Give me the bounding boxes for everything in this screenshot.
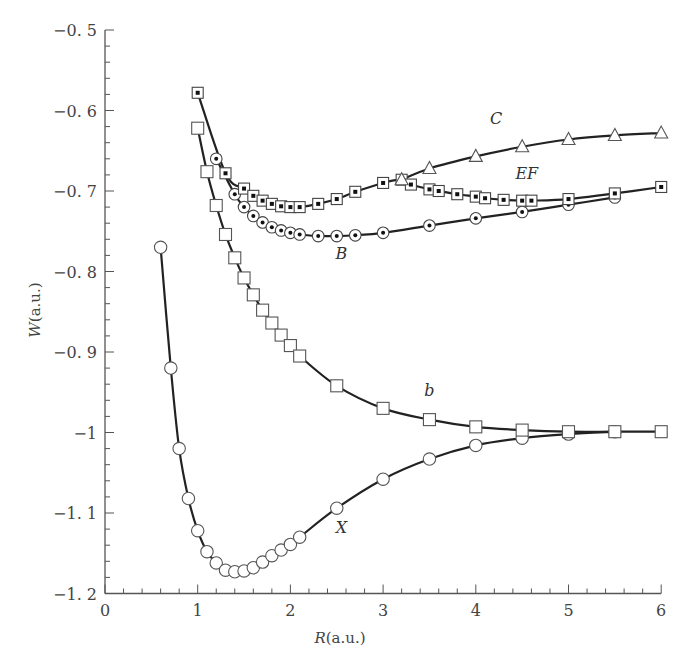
open-square-icon: [423, 414, 435, 426]
center-dot-icon: [261, 220, 265, 224]
open-circle-icon: [192, 525, 204, 537]
open-circle-icon: [331, 502, 343, 514]
marker-open-square: [470, 421, 482, 433]
open-square-icon: [377, 402, 389, 414]
center-square-icon: [298, 205, 302, 209]
center-square-icon: [196, 91, 200, 95]
marker-dotted-square: [656, 181, 667, 192]
center-square-icon: [483, 196, 487, 200]
center-square-icon: [224, 171, 228, 175]
marker-open-circle: [201, 545, 213, 557]
curve-label-x: X: [334, 518, 348, 537]
center-square-icon: [474, 195, 478, 199]
marker-open-square: [294, 350, 306, 362]
x-tick-label: 5: [563, 601, 573, 620]
center-dot-icon: [279, 228, 283, 232]
y-tick-label: −0. 5: [53, 21, 97, 40]
y-axis-label: W(a.u.): [26, 282, 44, 337]
x-tick-label: 0: [100, 601, 110, 620]
marker-dotted-square: [313, 198, 324, 209]
center-square-icon: [316, 202, 320, 206]
open-circle-icon: [182, 492, 194, 504]
open-square-icon: [655, 426, 667, 438]
open-circle-icon: [377, 473, 389, 485]
open-square-icon: [470, 421, 482, 433]
open-circle-icon: [423, 453, 435, 465]
open-square-icon: [201, 166, 213, 178]
marker-dotted-square: [452, 189, 463, 200]
marker-open-circle: [165, 362, 177, 374]
center-square-icon: [335, 197, 339, 201]
marker-dotted-square: [294, 202, 305, 213]
center-dot-icon: [214, 157, 218, 161]
open-square-icon: [294, 350, 306, 362]
curve-label-ef: EF: [514, 164, 539, 183]
center-square-icon: [437, 189, 441, 193]
marker-open-square: [331, 380, 343, 392]
open-square-icon: [257, 304, 269, 316]
marker-dotted-square: [192, 87, 203, 98]
center-square-icon: [409, 183, 413, 187]
x-axis-label: R(a.u.): [313, 629, 365, 647]
marker-open-square: [516, 424, 528, 436]
marker-open-circle: [377, 473, 389, 485]
marker-open-square: [220, 228, 232, 240]
marker-dotted-circle: [238, 201, 250, 213]
center-square-icon: [529, 199, 533, 203]
center-dot-icon: [288, 231, 292, 235]
y-tick-label: −1. 1: [53, 504, 97, 523]
marker-dotted-square: [331, 194, 342, 205]
axes: −0. 5−0. 6−0. 7−0. 8−0. 9−1−1. 1−1. 2012…: [53, 21, 666, 620]
center-dot-icon: [427, 224, 431, 228]
center-square-icon: [427, 187, 431, 191]
open-square-icon: [563, 426, 575, 438]
open-circle-icon: [173, 442, 185, 454]
marker-open-circle: [192, 525, 204, 537]
open-square-icon: [609, 426, 621, 438]
marker-dotted-square: [220, 168, 231, 179]
center-dot-icon: [353, 233, 357, 237]
marker-dotted-square: [498, 194, 509, 205]
marker-open-circle: [293, 531, 305, 543]
marker-open-square: [192, 122, 204, 134]
marker-open-circle: [331, 502, 343, 514]
marker-open-square: [609, 426, 621, 438]
center-dot-icon: [381, 231, 385, 235]
y-tick-label: −1. 2: [53, 585, 97, 604]
center-dot-icon: [298, 232, 302, 236]
marker-open-square: [655, 426, 667, 438]
center-dot-icon: [474, 216, 478, 220]
marker-open-square: [257, 304, 269, 316]
x-tick-label: 3: [378, 601, 388, 620]
curve-label-b: b: [424, 381, 434, 400]
open-circle-icon: [165, 362, 177, 374]
center-dot-icon: [251, 214, 255, 218]
curves: [161, 93, 662, 572]
curve-label-b: B: [335, 244, 348, 263]
open-square-icon: [516, 424, 528, 436]
center-square-icon: [502, 198, 506, 202]
marker-dotted-circle: [210, 153, 222, 165]
y-tick-label: −1: [73, 424, 97, 443]
marker-dotted-square: [563, 194, 574, 205]
open-circle-icon: [201, 545, 213, 557]
marker-open-triangle: [655, 126, 668, 138]
x-tick-label: 1: [193, 601, 203, 620]
center-square-icon: [251, 194, 255, 198]
marker-open-square: [201, 166, 213, 178]
marker-open-square: [423, 414, 435, 426]
center-dot-icon: [316, 234, 320, 238]
center-square-icon: [242, 187, 246, 191]
center-square-icon: [659, 185, 663, 189]
center-square-icon: [261, 199, 265, 203]
marker-dotted-square: [350, 186, 361, 197]
open-circle-icon: [470, 439, 482, 451]
open-square-icon: [229, 252, 241, 264]
open-circle-icon: [293, 531, 305, 543]
marker-dotted-circle: [349, 229, 361, 241]
y-tick-label: −0. 8: [53, 263, 97, 282]
y-tick-label: −0. 6: [53, 102, 97, 121]
marker-dotted-circle: [294, 229, 306, 241]
center-square-icon: [520, 199, 524, 203]
center-dot-icon: [270, 225, 274, 229]
